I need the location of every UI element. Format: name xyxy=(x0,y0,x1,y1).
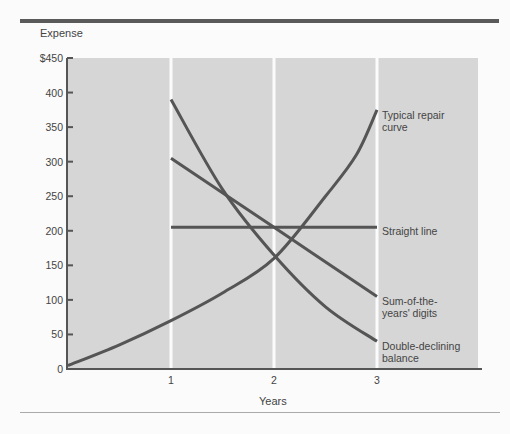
svg-text:2: 2 xyxy=(271,374,277,386)
svg-text:1: 1 xyxy=(168,374,174,386)
x-axis: 123 xyxy=(168,374,380,386)
svg-text:3: 3 xyxy=(374,374,380,386)
legend-straight-line: Straight line xyxy=(382,225,437,237)
svg-text:300: 300 xyxy=(45,156,63,168)
svg-text:350: 350 xyxy=(45,121,63,133)
svg-text:0: 0 xyxy=(57,363,63,375)
bottom-rule xyxy=(20,412,500,413)
svg-text:150: 150 xyxy=(45,259,63,271)
legend-repair-curve: Typical repair curve xyxy=(382,109,444,133)
svg-text:100: 100 xyxy=(45,294,63,306)
legend-text: curve xyxy=(382,121,444,133)
svg-text:250: 250 xyxy=(45,190,63,202)
legend-text: years' digits xyxy=(382,307,437,319)
legend-text: balance xyxy=(382,352,460,364)
chart-plot: $450400350300250200150100500 123 xyxy=(0,0,510,434)
svg-text:400: 400 xyxy=(45,87,63,99)
legend-sum-of-years: Sum-of-the- years' digits xyxy=(382,295,437,319)
legend-double-declining: Double-declining balance xyxy=(382,340,460,364)
svg-text:50: 50 xyxy=(51,328,63,340)
legend-text: Double-declining xyxy=(382,340,460,352)
x-axis-title: Years xyxy=(259,395,287,407)
legend-text: Typical repair xyxy=(382,109,444,121)
legend-text: Straight line xyxy=(382,225,437,237)
svg-text:200: 200 xyxy=(45,225,63,237)
svg-text:$450: $450 xyxy=(40,52,64,64)
legend-text: Sum-of-the- xyxy=(382,295,437,307)
